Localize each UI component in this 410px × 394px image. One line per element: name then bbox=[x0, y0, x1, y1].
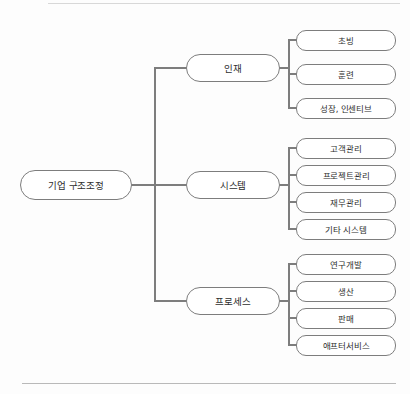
bottom-divider-rule bbox=[22, 383, 396, 384]
leaf-node-1-1-label: 프로젝트관리 bbox=[323, 169, 370, 181]
leaf-node-1-1[interactable]: 프로젝트관리 bbox=[296, 165, 396, 186]
diagram-page: 기업 구조조정인재초빙훈련성장, 인센티브시스템고객관리프로젝트관리재무관리기타… bbox=[0, 0, 410, 394]
branch-node-0[interactable]: 인재 bbox=[186, 54, 280, 82]
leaf-node-0-0[interactable]: 초빙 bbox=[296, 30, 396, 51]
leaf-node-2-3[interactable]: 애프터서비스 bbox=[296, 335, 396, 356]
leaf-node-1-2[interactable]: 재무관리 bbox=[296, 192, 396, 213]
branch-node-2-label: 프로세스 bbox=[215, 294, 250, 308]
root-node-label: 기업 구조조정 bbox=[48, 178, 104, 192]
branch-node-1[interactable]: 시스템 bbox=[186, 171, 280, 199]
leaf-node-2-2[interactable]: 판매 bbox=[296, 308, 396, 329]
leaf-node-0-2[interactable]: 성장, 인센티브 bbox=[296, 98, 396, 119]
leaf-node-0-2-label: 성장, 인센티브 bbox=[320, 102, 372, 114]
branch-node-2[interactable]: 프로세스 bbox=[186, 287, 280, 315]
leaf-node-2-1[interactable]: 생산 bbox=[296, 281, 396, 302]
leaf-node-1-3[interactable]: 기타 시스템 bbox=[296, 219, 396, 240]
leaf-node-0-1[interactable]: 훈련 bbox=[296, 64, 396, 85]
root-node[interactable]: 기업 구조조정 bbox=[20, 170, 132, 200]
leaf-node-0-1-label: 훈련 bbox=[338, 68, 354, 80]
leaf-node-0-0-label: 초빙 bbox=[338, 34, 354, 46]
leaf-node-2-0-label: 연구개발 bbox=[330, 258, 361, 270]
leaf-node-2-2-label: 판매 bbox=[338, 312, 354, 324]
leaf-node-1-3-label: 기타 시스템 bbox=[325, 223, 367, 235]
leaf-node-1-0[interactable]: 고객관리 bbox=[296, 138, 396, 159]
leaf-node-2-0[interactable]: 연구개발 bbox=[296, 254, 396, 275]
leaf-node-1-2-label: 재무관리 bbox=[330, 196, 361, 208]
branch-node-0-label: 인재 bbox=[224, 61, 242, 75]
branch-node-1-label: 시스템 bbox=[220, 178, 246, 192]
leaf-node-2-1-label: 생산 bbox=[338, 285, 354, 297]
leaf-node-2-3-label: 애프터서비스 bbox=[323, 339, 370, 351]
leaf-node-1-0-label: 고객관리 bbox=[330, 142, 361, 154]
